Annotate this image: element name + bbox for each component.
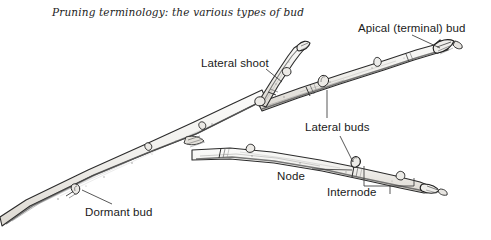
leader-lateral-bud-lower (340, 136, 353, 162)
lower-branch-bud-a (246, 144, 255, 152)
stem-bud-bump-a (145, 143, 152, 151)
leader-apical-bud (412, 35, 440, 48)
fork-joint (184, 136, 205, 147)
label-lateral-shoot: Lateral shoot (201, 57, 269, 69)
label-node: Node (277, 170, 305, 182)
lower-branch-tip (420, 184, 447, 195)
illustration-figure: Pruning terminology: the various types o… (0, 0, 491, 240)
stem-bud-bump-b (199, 122, 206, 130)
dormant-bud (71, 184, 80, 194)
lower-branch-bud-b (396, 171, 405, 180)
label-apical-bud: Apical (terminal) bud (358, 22, 466, 34)
label-lateral-buds: Lateral buds (305, 121, 370, 133)
leader-dormant-bud (82, 190, 112, 204)
upper-branch-bud-b (374, 57, 381, 66)
lateral-bud-upper (318, 75, 329, 86)
lateral-bud-lower (351, 157, 360, 168)
label-dormant-bud: Dormant bud (85, 206, 153, 218)
label-internode: Internode (327, 186, 377, 198)
figure-title: Pruning terminology: the various types o… (52, 6, 304, 18)
branch-illustration (0, 0, 491, 240)
